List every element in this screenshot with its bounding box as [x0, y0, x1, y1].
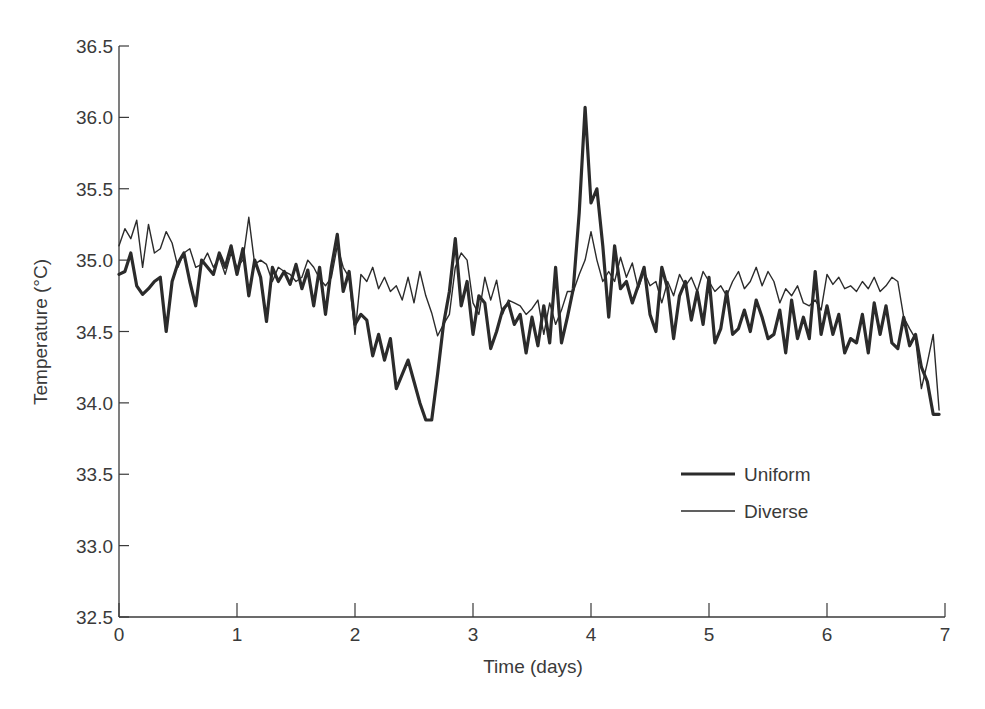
y-tick-label: 32.5	[76, 607, 113, 628]
x-tick-label: 2	[350, 624, 361, 645]
series-layer	[119, 107, 939, 420]
legend-label-diverse: Diverse	[744, 501, 808, 522]
x-tick-label: 5	[704, 624, 715, 645]
y-axis-title: Temperature (°C)	[30, 259, 51, 405]
y-tick-label: 36.0	[76, 107, 113, 128]
y-tick-label: 33.5	[76, 464, 113, 485]
temperature-line-chart: 32.533.033.534.034.535.035.536.036.5 012…	[0, 0, 985, 709]
y-tick-label: 36.5	[76, 36, 113, 57]
x-tick-label: 4	[586, 624, 597, 645]
y-axis: 32.533.033.534.034.535.035.536.036.5	[76, 36, 129, 628]
series-line-diverse	[119, 217, 939, 410]
x-tick-label: 7	[940, 624, 951, 645]
y-tick-label: 35.0	[76, 250, 113, 271]
series-line-uniform	[119, 107, 939, 420]
y-tick-label: 33.0	[76, 536, 113, 557]
x-axis-title: Time (days)	[483, 656, 583, 677]
legend: Uniform Diverse	[681, 464, 811, 522]
x-tick-label: 6	[822, 624, 833, 645]
y-tick-label: 35.5	[76, 179, 113, 200]
x-axis: 01234567	[114, 603, 951, 645]
x-tick-label: 3	[468, 624, 479, 645]
x-tick-label: 0	[114, 624, 125, 645]
legend-label-uniform: Uniform	[744, 464, 811, 485]
y-tick-label: 34.5	[76, 322, 113, 343]
x-tick-label: 1	[232, 624, 243, 645]
y-tick-label: 34.0	[76, 393, 113, 414]
